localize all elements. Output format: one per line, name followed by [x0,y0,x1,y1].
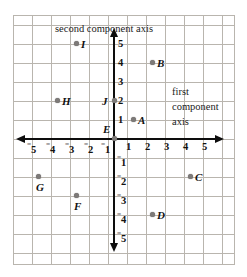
x-tick-2: 2 [145,142,150,153]
x-tick-3: 3 [164,142,169,153]
coordinate-plane-figure: second component axis first component ax… [0,0,247,277]
grid-line-vertical [165,15,166,265]
x-tick-neg-5: ⁻5 [27,142,36,155]
y-tick-2: 2 [118,96,123,107]
first-component-axis-title-line3: axis [172,115,189,128]
grid-line-horizontal [13,44,235,45]
data-point-label-F: F [74,201,81,212]
data-point-label-G: G [36,182,44,193]
x-axis-arrow-right [215,135,224,143]
grid-line-vertical [70,15,71,265]
grid-line-vertical [234,15,235,265]
data-point-B [150,60,155,65]
y-axis-arrow-down [110,243,118,252]
y-tick-neg-1: ⁻1 [117,155,126,168]
x-tick-neg-3: ⁻3 [65,142,74,155]
x-tick-4: 4 [183,142,188,153]
y-tick-neg-5: ⁻5 [117,231,126,244]
x-axis-line [24,138,216,140]
data-point-D [150,212,155,217]
y-tick-4: 4 [118,58,123,69]
data-point-label-A: A [138,115,145,126]
grid-line-vertical [51,15,52,265]
grid-line-vertical [184,15,185,265]
data-point-C [188,174,193,179]
grid-line-horizontal [13,264,235,265]
data-point-H [55,98,60,103]
x-tick-neg-2: ⁻2 [84,142,93,155]
grid-line-vertical [13,15,14,265]
grid-line-horizontal [13,253,235,254]
grid-line-horizontal [13,120,235,121]
grid-line-vertical [108,15,109,265]
data-point-G [36,174,41,179]
first-component-axis-title-line2: component [172,100,219,113]
data-point-A [131,117,136,122]
data-point-label-B: B [157,58,164,69]
data-point-label-J: J [102,96,108,107]
y-tick-1: 1 [118,115,123,126]
grid-background [13,15,235,265]
data-point-label-I: I [81,39,85,50]
data-point-label-D: D [157,210,165,221]
y-tick-3: 3 [118,77,123,88]
grid-line-vertical [89,15,90,265]
y-tick-neg-2: ⁻2 [117,174,126,187]
data-point-F [74,193,79,198]
grid-line-horizontal [13,15,235,16]
data-point-label-E: E [103,124,110,135]
x-tick-1: 1 [126,142,131,153]
x-tick-neg-1: ⁻1 [101,142,110,155]
y-tick-neg-3: ⁻3 [117,193,126,206]
grid-line-vertical [203,15,204,265]
grid-line-horizontal [13,63,235,64]
grid-line-vertical [127,15,128,265]
grid-line-vertical [146,15,147,265]
grid-line-vertical [32,15,33,265]
data-point-I [74,41,79,46]
x-tick-5: 5 [202,142,207,153]
first-component-axis-title-line1: first [172,85,189,98]
data-point-label-C: C [195,172,202,183]
data-point-E [112,136,117,141]
x-axis-arrow-left [16,135,25,143]
x-tick-neg-4: ⁻4 [46,142,55,155]
y-tick-neg-4: ⁻4 [117,212,126,225]
y-tick-5: 5 [118,39,123,50]
second-component-axis-title: second component axis [55,22,153,35]
grid-line-horizontal [13,82,235,83]
data-point-J [112,98,117,103]
data-point-label-H: H [62,96,71,107]
